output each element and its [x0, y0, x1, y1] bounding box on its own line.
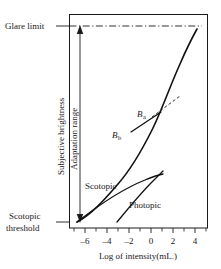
adaptation-range-label: Adaptation range [69, 108, 79, 170]
xtick-label-5: 4 [193, 236, 198, 246]
x-axis-minor-ticks [74, 228, 206, 232]
photopic-branch [117, 171, 163, 222]
point-ba-label: Ba [137, 109, 146, 120]
xtick-label-4: 2 [171, 236, 176, 246]
figure-canvas: Glare limit Scotopic threshold Subjectiv… [0, 0, 221, 269]
xtick-label-3: 0 [149, 236, 154, 246]
point-bb-label: Bb [112, 130, 121, 141]
xtick-label-0: –6 [80, 236, 91, 246]
xtick-label-1: –4 [102, 236, 113, 246]
y-axis-label: Subjective brightness [56, 97, 66, 175]
adaptation-range-arrow-head-up [77, 25, 83, 34]
total-adaptation-curve [77, 29, 197, 222]
scotopic-threshold-label-line2: threshold [6, 223, 40, 233]
xtick-label-2: –2 [124, 236, 134, 246]
x-axis-label: Log of intensity(mL.) [99, 251, 177, 261]
scotopic-curve-label: Scotopic [85, 181, 117, 191]
photopic-curve-label: Photopic [129, 200, 161, 210]
glare-limit-label: Glare limit [5, 21, 45, 31]
x-axis-tick-labels: –6 –4 –2 0 2 4 [80, 236, 198, 246]
brightness-adaptation-figure: Glare limit Scotopic threshold Subjectiv… [0, 0, 221, 269]
scotopic-threshold-label-line1: Scotopic [9, 211, 41, 221]
